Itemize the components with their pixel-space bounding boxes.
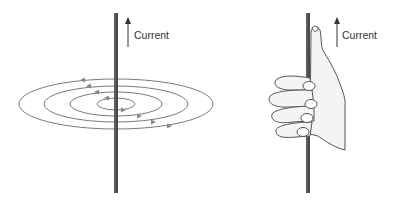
wire-left	[114, 13, 118, 193]
current-label-left: Current	[134, 29, 169, 41]
current-label-right: Current	[342, 29, 377, 41]
current-arrow-left-icon	[125, 17, 131, 47]
diagram-canvas	[0, 0, 393, 202]
current-arrow-right-icon	[334, 17, 340, 47]
